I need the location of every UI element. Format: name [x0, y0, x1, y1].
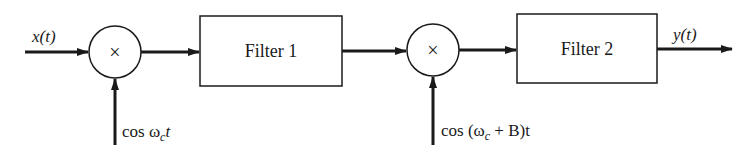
block-diagram: x(t) × cos ωct Filter 1 × cos (ωc + B)t … [0, 0, 753, 153]
oscillator-1-label: cos ωct [122, 122, 171, 144]
filter-2-label: Filter 2 [561, 39, 614, 59]
oscillator-2-label: cos (ωc + B)t [441, 121, 530, 143]
filter-1: Filter 1 [200, 16, 342, 86]
multiply-icon: × [427, 39, 438, 61]
output-label: y(t) [671, 25, 697, 44]
multiply-icon: × [109, 41, 120, 63]
filter-2: Filter 2 [517, 14, 657, 83]
input-label: x(t) [31, 27, 56, 46]
mixer-1: × cos ωct [89, 26, 171, 145]
filter-1-label: Filter 1 [245, 41, 298, 61]
mixer-2: × cos (ωc + B)t [407, 24, 530, 145]
output-signal: y(t) [657, 25, 732, 49]
input-signal: x(t) [25, 27, 88, 52]
